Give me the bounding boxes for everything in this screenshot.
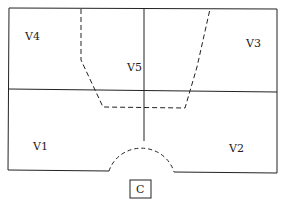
caption-label: C xyxy=(136,183,144,196)
semicircle-dashed-arc xyxy=(109,148,174,172)
region-label-v5: V5 xyxy=(126,61,142,74)
partition-diagram: V1 V2 V3 V4 V5 C xyxy=(0,0,282,203)
v5-dashed-boundary xyxy=(81,9,210,108)
region-label-v1: V1 xyxy=(32,140,48,153)
region-label-v4: V4 xyxy=(24,30,40,43)
region-label-v2: V2 xyxy=(228,142,244,155)
region-label-v3: V3 xyxy=(245,37,261,50)
horizontal-divider xyxy=(9,89,277,92)
